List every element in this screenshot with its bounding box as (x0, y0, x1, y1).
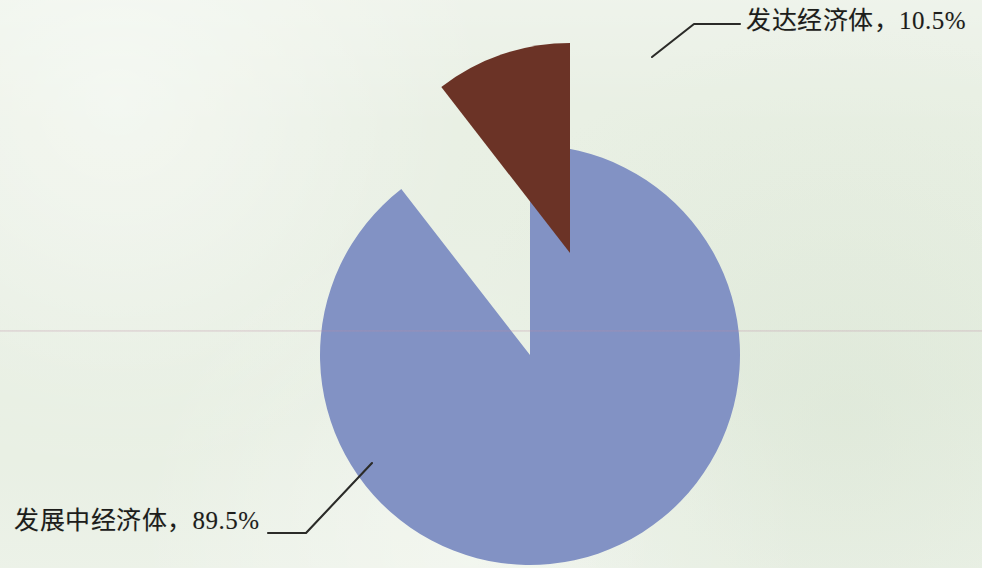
pie-label-developing-economies: 发展中经济体，89.5% (14, 508, 260, 533)
pie-slice-developing-economies[interactable] (320, 145, 740, 565)
pie-label-developed-economies: 发达经济体，10.5% (746, 8, 966, 33)
leader-line-developing-economies (268, 463, 372, 533)
pie-slice-developed-economies[interactable] (441, 43, 570, 253)
leader-line-developed-economies (652, 24, 740, 57)
pie-chart-canvas (0, 0, 982, 568)
pie-chart-figure: 发达经济体，10.5% 发展中经济体，89.5% (0, 0, 982, 568)
